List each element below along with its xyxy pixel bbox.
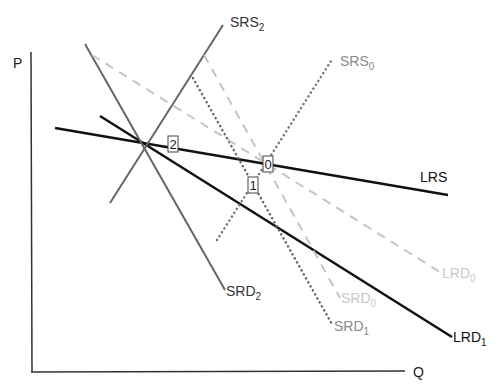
curve-srs2: SRS2 [110,14,265,203]
point-label: 1 [249,178,256,193]
point-1: 1 [248,177,258,193]
curve-srs0: SRS0 [217,53,375,240]
curve-label-srs2: SRS2 [230,14,265,33]
curve-label-lrd1: LRD1 [453,329,487,348]
curve-lrd1: LRD1 [100,116,487,348]
curve-label-srd0: SRD0 [341,290,377,309]
curve-label-srd2: SRD2 [226,283,262,302]
x-axis [31,371,405,372]
point-2: 2 [168,136,178,152]
y-axis-label: P [13,55,22,71]
curves: LRSLRD1SRS2SRD2SRS0SRD1SRD0LRD0 [55,14,487,348]
point-0: 0 [263,156,273,172]
point-label: 2 [169,137,176,152]
y-axis [31,52,32,372]
curve-label-subscript: 0 [371,298,377,309]
economics-diagram: P Q LRSLRD1SRS2SRD2SRS0SRD1SRD0LRD0 201 [0,0,502,389]
curve-srd0: SRD0 [204,55,377,309]
curve-label-srs0: SRS0 [340,53,375,72]
curve-srd2: SRD2 [85,44,262,302]
curve-label-srd1: SRD1 [334,318,370,337]
curve-line-srs2 [110,25,223,203]
curve-line-srd2 [85,44,225,290]
curve-label-subscript: 1 [481,337,487,348]
point-label: 0 [264,157,271,172]
equilibrium-points: 201 [168,136,273,193]
curve-line-srd1 [193,78,333,326]
curve-label-lrd0: LRD0 [442,265,476,284]
curve-lrd0: LRD0 [92,55,476,284]
curve-label-subscript: 2 [256,291,262,302]
caption-cutoff [0,381,502,389]
curve-label-lrs: LRS [420,169,447,185]
x-axis-label: Q [413,364,424,380]
curve-label-subscript: 1 [364,326,370,337]
curve-label-subscript: 0 [369,61,375,72]
curve-label-subscript: 0 [470,273,476,284]
curve-line-srd0 [204,55,340,298]
curve-label-subscript: 2 [259,22,265,33]
